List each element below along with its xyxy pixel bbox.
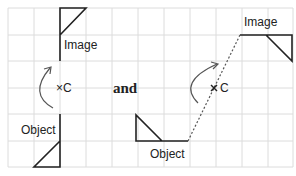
- left-center-label: ×C: [56, 82, 72, 94]
- right-center-label: C: [220, 82, 229, 94]
- right-object-label: Object: [150, 148, 185, 160]
- left-image-label: Image: [64, 39, 97, 51]
- right-image-label: Image: [244, 16, 277, 28]
- left-object-label: Object: [21, 124, 56, 136]
- right-rotation-arrow-icon: [191, 62, 218, 103]
- right-object-shape: [136, 115, 188, 141]
- grid: [8, 8, 293, 167]
- and-connector-text: and: [113, 81, 137, 96]
- right-image-shape: [240, 35, 292, 61]
